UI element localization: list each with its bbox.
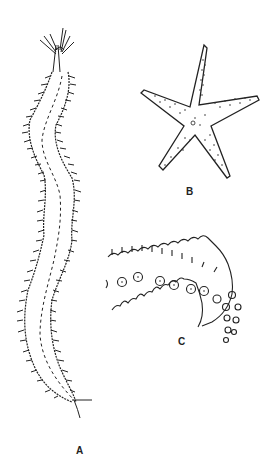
- worm-drawing: [17, 28, 92, 418]
- worm-tail: [72, 400, 92, 418]
- tube-feet: [106, 273, 241, 343]
- starfish-madreporite: [191, 121, 195, 125]
- panel-label-b: B: [186, 186, 193, 197]
- worm-left-edge: [25, 72, 72, 402]
- worm-right-edge: [51, 72, 76, 402]
- arm-spines: [112, 245, 217, 272]
- panel-label-c: C: [178, 336, 185, 347]
- illustration-canvas: [0, 0, 276, 464]
- worm-head: [40, 28, 74, 72]
- starfish-drawing: [141, 45, 259, 178]
- worm-right-parapodia: [50, 76, 81, 392]
- panel-label-a: A: [76, 445, 83, 456]
- worm-left-parapodia: [17, 76, 58, 398]
- arm-detail-drawing: [106, 236, 241, 343]
